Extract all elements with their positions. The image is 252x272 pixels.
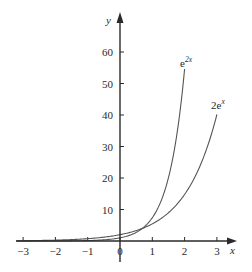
exponential-chart: −3−2−10123 102030405060 x y e2x 2ex	[0, 0, 252, 272]
y-tick-label: 50	[102, 78, 114, 90]
x-axis-label: x	[229, 244, 235, 256]
curves	[17, 69, 217, 241]
x-tick-label: 3	[214, 245, 220, 257]
curve-2ex	[17, 114, 217, 240]
x-tick-label: 2	[182, 245, 188, 257]
x-tick-label: 1	[150, 245, 156, 257]
curve-e2x	[17, 69, 185, 241]
y-tick-label: 20	[102, 172, 114, 184]
y-tick-label: 30	[102, 141, 114, 153]
y-tick-label: 40	[102, 109, 114, 121]
x-tick-label: −3	[17, 245, 29, 257]
x-tick-label: −1	[82, 245, 94, 257]
y-tick-label: 60	[102, 46, 114, 58]
y-tick-label: 10	[102, 204, 114, 216]
y-axis-label: y	[105, 14, 111, 26]
curve-label-2ex: 2ex	[211, 97, 225, 111]
curve-label-e2x: e2x	[180, 55, 193, 69]
x-tick-label: −2	[50, 245, 62, 257]
y-axis-arrow-icon	[117, 12, 124, 23]
